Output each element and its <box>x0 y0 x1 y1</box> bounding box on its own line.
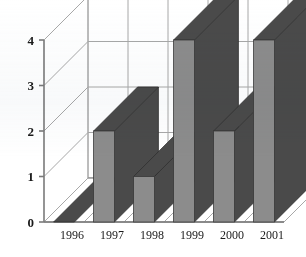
bar-chart-3d: 01234 199619971998199920002001 <box>0 0 306 257</box>
x-tick-label: 2000 <box>220 228 244 242</box>
x-tick-label: 1998 <box>140 228 164 242</box>
x-tick-label: 1996 <box>60 228 84 242</box>
y-tick-label: 2 <box>28 124 35 139</box>
gridline-depth-connector <box>44 87 88 131</box>
bar-column <box>254 0 306 222</box>
gridline-depth-connector <box>44 0 88 40</box>
bar-front-face <box>94 131 115 222</box>
bar-front-face <box>254 40 275 222</box>
y-tick-labels-group: 01234 <box>28 33 35 230</box>
y-tick-label: 1 <box>28 169 35 184</box>
y-tick-label: 0 <box>28 215 35 230</box>
x-tick-labels-group: 199619971998199920002001 <box>60 228 284 242</box>
y-tick-label: 3 <box>28 78 35 93</box>
y-tick-label: 4 <box>28 33 35 48</box>
bar-front-face <box>214 131 235 222</box>
chart-canvas: 01234 199619971998199920002001 <box>0 0 306 257</box>
gridline-depth-connector <box>44 42 88 86</box>
x-tick-label: 1999 <box>180 228 204 242</box>
gridline-depth-connector <box>44 133 88 177</box>
x-tick-label: 1997 <box>100 228 124 242</box>
x-tick-label: 2001 <box>260 228 284 242</box>
bar-front-face <box>174 40 195 222</box>
bar-front-face <box>134 177 155 223</box>
